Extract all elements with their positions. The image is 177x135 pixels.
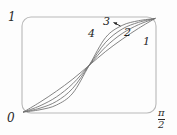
label-3-arrow-icon [114,22,121,26]
y-axis-max-label: 1 [8,11,16,23]
sigmoid-curve-family-figure: 1 0 π 2 1 2 3 4 [0,0,177,135]
curve-label-3: 3 [103,16,110,27]
fraction-denominator: 2 [158,119,165,131]
pi-over-two-fraction: π 2 [158,108,165,130]
curve-label-2: 2 [124,27,131,38]
fraction-numerator: π [158,108,165,119]
curve-label-1: 1 [143,36,150,47]
curve-label-4: 4 [88,28,95,39]
plot-canvas [0,0,177,135]
x-axis-max-label: π 2 [158,108,165,130]
origin-label: 0 [7,112,15,124]
